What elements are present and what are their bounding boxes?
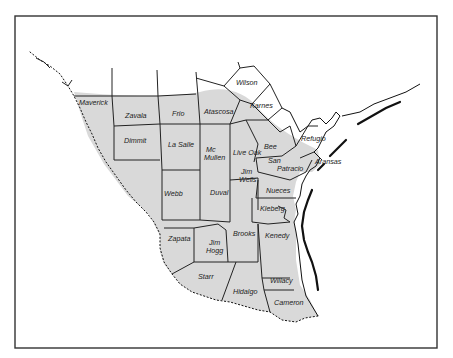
county-label: Webb	[164, 189, 183, 198]
county-label: Wells	[239, 175, 257, 184]
county-label: Patracio	[277, 164, 303, 173]
county-label: Frio	[172, 109, 184, 118]
county-label: Duval	[210, 188, 229, 197]
padre-island	[302, 190, 318, 290]
county-label: Live Oak	[233, 148, 262, 157]
county-label: Hogg	[206, 246, 223, 255]
county-label: Atascosa	[203, 107, 234, 116]
county-label: Dimmit	[124, 136, 147, 145]
county-label: Brooks	[233, 229, 256, 238]
county-label: Starr	[198, 272, 214, 281]
map-container: Wilson Karnes Maverick Zavala Frio Atasc…	[0, 0, 453, 358]
county-label: Zapata	[167, 234, 190, 243]
county-label: La Salle	[168, 140, 194, 149]
county-label: Wilson	[236, 78, 258, 87]
county-label: Bee	[264, 142, 277, 151]
county-label: Kleberg	[260, 204, 285, 213]
county-label: Refugio	[301, 134, 326, 143]
county-label: Karnes	[250, 101, 273, 110]
river-upper-segment	[36, 58, 72, 86]
county-label: Cameron	[274, 298, 304, 307]
county-label: Maverick	[79, 98, 108, 107]
south-texas-county-map: Wilson Karnes Maverick Zavala Frio Atasc…	[0, 0, 453, 358]
county-label: Mullen	[204, 153, 225, 162]
county-label: Aransas	[314, 157, 342, 166]
county-label: Hidalgo	[233, 287, 257, 296]
barrier-island-2	[330, 140, 346, 156]
county-label: Willacy	[270, 276, 293, 285]
barrier-island-1	[358, 102, 400, 124]
county-label: Zavala	[124, 111, 147, 120]
county-label: Nueces	[266, 186, 291, 195]
county-label: Kenedy	[265, 231, 290, 240]
